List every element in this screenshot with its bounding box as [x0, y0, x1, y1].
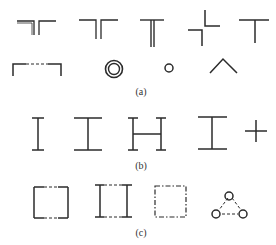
figure-canvas [0, 0, 276, 245]
symbol-h-shape-icon [128, 118, 166, 150]
symbol-i-beam-wide-icon [74, 118, 102, 150]
symbol-i-beam-wide-icon [198, 117, 227, 149]
symbol-i-beam-narrow-icon [32, 118, 44, 150]
symbol-double-i-beam-dashed-icon [95, 185, 132, 217]
symbol-offset-cross-icon [188, 10, 220, 46]
symbol-double-circle-icon [106, 61, 123, 78]
symbol-double-line-t-icon [79, 20, 118, 39]
caption-section-a: (a) [135, 86, 146, 97]
symbol-dashed-square-icon [155, 186, 186, 217]
caption-section-c: (c) [135, 227, 146, 238]
symbol-double-line-inverted-t-split-icon [17, 21, 56, 35]
caption-section-b: (b) [135, 160, 147, 171]
symbol-small-circle-icon [165, 64, 173, 72]
symbol-triangle-of-circles-dashed-icon [212, 192, 247, 218]
symbol-simple-t-icon [239, 20, 269, 43]
symbol-caret-icon [210, 59, 237, 73]
symbol-thick-stem-t-icon [140, 20, 164, 47]
symbol-bracket-dashed-top-icon [13, 64, 61, 76]
symbol-square-dashed-top-bottom-icon [34, 187, 68, 218]
symbol-plus-icon [245, 120, 267, 142]
